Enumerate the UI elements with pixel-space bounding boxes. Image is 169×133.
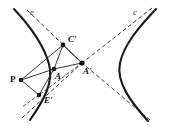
hyperbola-figure: e c P A A' C' E': [0, 0, 169, 133]
curve-label-e: e: [30, 8, 34, 17]
hyperbola-branch-group: [14, 9, 156, 121]
curve-label-c: c: [133, 8, 137, 17]
point-dot-aprime: [79, 60, 84, 65]
point-dot-cprime: [61, 43, 66, 48]
point-dot-eprime: [37, 93, 42, 98]
point-label-a: A: [55, 72, 61, 81]
segment-cprime-to-aprime: [63, 45, 82, 63]
point-label-eprime: E': [44, 96, 53, 105]
point-dot-p: [19, 78, 24, 83]
asymptote-upper-right: [82, 8, 152, 63]
segment-p-to-eprime: [21, 80, 39, 95]
segment-a-to-aprime: [54, 63, 82, 69]
point-label-aprime: A': [83, 67, 92, 76]
point-label-p: P: [10, 75, 16, 84]
ray-eprime-to-lower-left: [22, 95, 39, 107]
hyperbola-right-branch: [119, 9, 156, 121]
point-label-cprime: C': [68, 35, 77, 44]
